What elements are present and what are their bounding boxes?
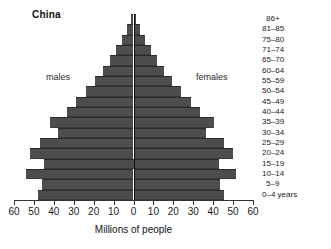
x-axis-tick — [34, 200, 35, 205]
x-axis-tick-label: 50 — [228, 206, 239, 217]
female-bar — [134, 55, 158, 65]
x-axis-tick-label: 30 — [188, 206, 199, 217]
x-axis-tick-label: 40 — [48, 206, 59, 217]
male-bar — [44, 159, 134, 169]
age-group-label: 50–54 — [255, 86, 331, 96]
female-bar — [134, 117, 215, 127]
x-axis-tick-label: 10 — [148, 206, 159, 217]
x-axis-tick-label: 0 — [131, 206, 137, 217]
age-group-label: 5–9 — [255, 179, 331, 189]
female-bar — [134, 138, 225, 148]
age-group-label: 15–19 — [255, 159, 331, 169]
male-bar — [50, 117, 134, 127]
female-bar — [134, 97, 192, 107]
female-bar — [134, 128, 207, 138]
age-group-label: 81–85 — [255, 24, 331, 34]
male-bar — [42, 179, 134, 189]
age-group-label: 71–74 — [255, 45, 331, 55]
plot-area — [14, 14, 253, 200]
male-bar — [95, 76, 134, 86]
x-axis-tick — [134, 200, 135, 205]
age-group-label: 86+ — [255, 14, 331, 24]
female-bar — [134, 169, 237, 179]
male-bar — [122, 35, 134, 45]
females-series-label: females — [196, 72, 228, 82]
male-bar — [110, 55, 134, 65]
x-axis-tick-labels: 6050403020100102030405060 — [0, 206, 331, 219]
female-bar — [134, 76, 173, 86]
male-bar — [67, 107, 134, 117]
female-bar — [134, 159, 220, 169]
female-bar — [134, 66, 165, 76]
age-group-label: 0–4 years — [255, 190, 331, 200]
age-group-labels: 86+81–8575–8071–7465–7060–6455–5950–5445… — [255, 14, 331, 200]
age-group-label: 10–14 — [255, 169, 331, 179]
female-bar — [134, 86, 182, 96]
age-group-label: 30–34 — [255, 128, 331, 138]
age-group-label: 60–64 — [255, 66, 331, 76]
age-group-label: 35–39 — [255, 117, 331, 127]
male-bar — [38, 190, 134, 200]
x-axis-tick — [153, 200, 154, 205]
x-axis-tick — [74, 200, 75, 205]
male-bar — [30, 148, 134, 158]
x-axis-tick-label: 20 — [168, 206, 179, 217]
male-bar — [116, 45, 134, 55]
age-group-label: 55–59 — [255, 76, 331, 86]
x-axis-tick — [94, 200, 95, 205]
x-axis-tick-label: 10 — [108, 206, 119, 217]
x-axis-tick — [213, 200, 214, 205]
x-axis-tick — [253, 200, 254, 205]
x-axis-tick-label: 20 — [88, 206, 99, 217]
female-bar — [134, 190, 225, 200]
centre-axis-line — [134, 14, 135, 200]
age-group-label: 40–44 — [255, 107, 331, 117]
female-bar — [134, 24, 141, 34]
x-axis-tick-label: 60 — [247, 206, 258, 217]
male-bar — [86, 86, 134, 96]
age-group-label: 65–70 — [255, 55, 331, 65]
age-group-label: 75–80 — [255, 35, 331, 45]
female-bar — [134, 35, 146, 45]
age-group-label: 20–24 — [255, 148, 331, 158]
x-axis-tick-label: 60 — [8, 206, 19, 217]
males-series-label: males — [46, 72, 70, 82]
x-axis-tick — [233, 200, 234, 205]
population-pyramid-chart: China males females 86+81–8575–8071–7465… — [0, 0, 331, 249]
x-axis-tick-label: 40 — [208, 206, 219, 217]
x-axis-tick — [193, 200, 194, 205]
male-bar — [103, 66, 134, 76]
female-bar — [134, 107, 201, 117]
male-bar — [26, 169, 134, 179]
female-bar — [134, 148, 234, 158]
x-axis-tick — [114, 200, 115, 205]
x-axis-tick-label: 50 — [28, 206, 39, 217]
x-axis-title: Millions of people — [14, 224, 253, 235]
age-group-label: 25–29 — [255, 138, 331, 148]
x-axis-tick — [173, 200, 174, 205]
age-group-label: 45–49 — [255, 97, 331, 107]
male-bar — [76, 97, 134, 107]
male-bar — [127, 24, 134, 34]
x-axis-tick-label: 30 — [68, 206, 79, 217]
x-axis-tick — [14, 200, 15, 205]
male-bar — [58, 128, 134, 138]
x-axis-tick — [54, 200, 55, 205]
female-bar — [134, 179, 221, 189]
female-bar — [134, 45, 152, 55]
male-bar — [40, 138, 134, 148]
